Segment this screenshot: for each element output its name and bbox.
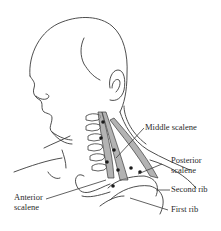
- label-middle-scalene-text: Middle scalene: [145, 123, 197, 133]
- face-profile: [30, 76, 72, 144]
- label-first-rib-text: First rib: [171, 205, 198, 215]
- head-outline: [30, 17, 127, 112]
- temple-line: [81, 38, 100, 80]
- label-first-rib: First rib: [171, 205, 198, 215]
- chest-line: [14, 158, 62, 172]
- label-second-rib-text: Second rib: [171, 185, 208, 195]
- label-posterior-scalene-line2: scalene: [171, 166, 202, 176]
- clavicle-head: [75, 175, 110, 193]
- collar-curve: [48, 172, 60, 179]
- ear-inner: [112, 79, 120, 92]
- label-middle-scalene: Middle scalene: [145, 123, 197, 133]
- leader-first-rib: [130, 198, 168, 210]
- label-anterior-scalene: Anterior scalene: [14, 193, 43, 212]
- label-anterior-scalene-line2: scalene: [14, 203, 43, 213]
- label-second-rib: Second rib: [171, 185, 208, 195]
- label-posterior-scalene: Posterior scalene: [171, 156, 202, 175]
- ear: [109, 70, 124, 101]
- throat: [62, 150, 66, 168]
- rib-lower: [100, 196, 124, 206]
